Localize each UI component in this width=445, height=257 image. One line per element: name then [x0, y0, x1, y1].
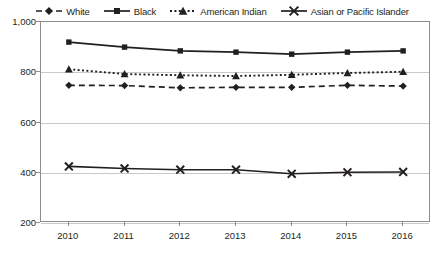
y-axis-tick-label: 200: [2, 217, 36, 228]
y-axis-tick-label: 600: [2, 116, 36, 127]
x-marker: [281, 5, 307, 17]
legend-item-american-indian[interactable]: American Indian: [170, 5, 266, 17]
legend-item-label: Black: [134, 6, 156, 17]
legend-item-label: Asian or Pacific Islander: [311, 6, 409, 17]
x-axis-tick-label: 2016: [392, 230, 413, 241]
square-marker: [104, 5, 130, 17]
x-axis-tick-mark: [68, 222, 69, 226]
chart-legend: WhiteBlackAmerican IndianAsian or Pacifi…: [0, 2, 445, 20]
x-axis-tick-mark: [402, 222, 403, 226]
legend-item-black[interactable]: Black: [104, 5, 156, 17]
y-axis-tick-mark: [35, 21, 40, 22]
y-axis-tick-mark: [35, 122, 40, 123]
legend-item-label: American Indian: [200, 6, 266, 17]
legend-item-label: White: [66, 6, 90, 17]
x-axis-tick-label: 2010: [57, 230, 78, 241]
y-axis-tick-label: 800: [2, 66, 36, 77]
x-axis-tick-mark: [179, 222, 180, 226]
series-black: [66, 39, 406, 56]
y-axis-tick-mark: [35, 71, 40, 72]
x-axis-tick-label: 2011: [113, 230, 133, 241]
x-axis-tick-label: 2013: [224, 230, 245, 241]
diamond-marker: [36, 5, 62, 17]
legend-item-asian-or-pacific-islander[interactable]: Asian or Pacific Islander: [281, 5, 409, 17]
x-axis-tick-label: 2014: [280, 230, 301, 241]
line-chart: WhiteBlackAmerican IndianAsian or Pacifi…: [0, 0, 445, 257]
x-axis-tick-label: 2012: [169, 230, 190, 241]
x-axis-tick-mark: [291, 222, 292, 226]
legend-item-white[interactable]: White: [36, 5, 90, 17]
plot-area: [40, 21, 430, 222]
x-axis-tick-label: 2015: [336, 230, 357, 241]
y-axis-tick-mark: [35, 222, 40, 223]
series-american-indian: [65, 65, 407, 79]
series-layer: [41, 22, 431, 223]
triangle-marker: [170, 5, 196, 17]
series-white: [65, 82, 407, 92]
y-axis-tick-label: 400: [2, 166, 36, 177]
y-axis-tick-mark: [35, 172, 40, 173]
series-asian-or-pacific-islander: [65, 163, 407, 178]
x-axis-tick-mark: [346, 222, 347, 226]
x-axis-tick-mark: [235, 222, 236, 226]
y-axis-tick-label: 1,000: [2, 16, 36, 27]
x-axis-tick-mark: [124, 222, 125, 226]
